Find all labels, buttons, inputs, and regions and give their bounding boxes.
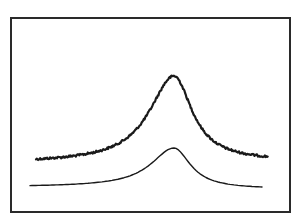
plot-frame <box>11 18 290 212</box>
smooth-fit-line <box>30 148 262 187</box>
noisy-spectrum-line <box>36 76 268 160</box>
chart-figure <box>0 0 302 224</box>
